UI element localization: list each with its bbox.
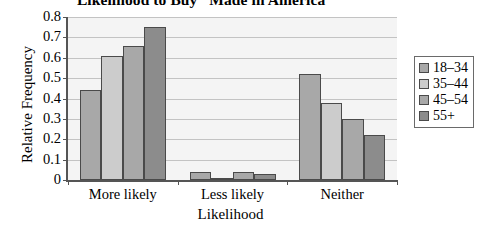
bar: [321, 103, 343, 180]
bar: [299, 74, 321, 180]
legend-item: 45–54: [419, 92, 468, 108]
legend-item-label: 35–44: [433, 77, 468, 91]
y-tick-label: 0.3: [43, 111, 61, 126]
y-tick-label: 0.7: [43, 30, 61, 45]
bars-layer: [68, 17, 397, 180]
legend-swatch-icon: [419, 63, 429, 73]
bar: [123, 46, 145, 180]
x-axis-category-label: Less likely: [201, 186, 264, 203]
plot-area: 00.10.20.30.40.50.60.70.8 More likelyLes…: [66, 17, 397, 182]
legend: 18–3435–4445–5455+: [414, 56, 474, 128]
legend-item: 18–34: [419, 60, 468, 76]
bar-chart: Likelihood to Buy “Made in America” Rela…: [0, 0, 499, 237]
x-tick-mark: [68, 180, 69, 185]
legend-swatch-icon: [419, 111, 429, 121]
legend-swatch-icon: [419, 95, 429, 105]
y-tick-label: 0: [54, 172, 61, 187]
bar: [233, 172, 255, 180]
chart-title: Likelihood to Buy “Made in America”: [0, 0, 410, 9]
legend-item: 35–44: [419, 76, 468, 92]
legend-item-label: 45–54: [433, 93, 468, 107]
bar: [190, 172, 212, 180]
y-tick-label: 0.2: [43, 132, 61, 147]
y-tick-label: 0.6: [43, 50, 61, 65]
bar: [101, 56, 123, 180]
x-axis-title: Likelihood: [66, 206, 395, 223]
bar: [211, 178, 233, 180]
x-axis-category-label: More likely: [89, 186, 157, 203]
bar: [80, 90, 102, 180]
bar: [342, 119, 364, 180]
bar: [254, 174, 276, 180]
x-tick-mark: [397, 180, 398, 185]
legend-item: 55+: [419, 108, 468, 124]
bar: [144, 27, 166, 180]
y-axis-title: Relative Frequency: [19, 25, 36, 185]
legend-item-label: 55+: [433, 109, 455, 123]
y-tick-label: 0.5: [43, 70, 61, 85]
x-tick-mark: [178, 180, 179, 185]
y-tick-label: 0.1: [43, 152, 61, 167]
y-tick-label: 0.8: [43, 9, 61, 24]
legend-item-label: 18–34: [433, 61, 468, 75]
y-tick-label: 0.4: [43, 91, 61, 106]
legend-swatch-icon: [419, 79, 429, 89]
x-axis-category-label: Neither: [320, 186, 363, 203]
bar: [364, 135, 386, 180]
x-tick-mark: [287, 180, 288, 185]
